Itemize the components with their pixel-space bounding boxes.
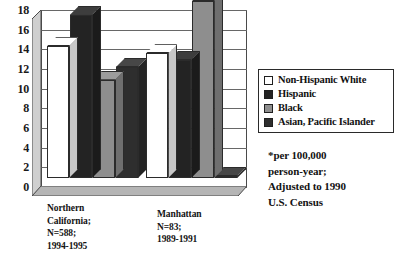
bar-side-face: [115, 71, 124, 178]
legend: Non-Hispanic White Hispanic Black Asian,…: [258, 69, 394, 133]
bar-front-face: [47, 46, 69, 178]
bar-side-face: [191, 51, 200, 178]
y-axis-tick-label: 0: [3, 181, 29, 193]
legend-label: Black: [278, 103, 303, 114]
plot-area: [32, 10, 247, 196]
y-axis-tick-label: 4: [3, 142, 29, 154]
bar-side-face: [214, 0, 223, 178]
bar-chart: 181614121086420 Northern California; N=5…: [0, 0, 401, 268]
legend-item-black: Black: [264, 101, 389, 115]
y-axis-tick-label: 14: [3, 43, 29, 55]
y-axis: 181614121086420: [0, 10, 29, 196]
bar-side-face: [138, 58, 147, 178]
legend-swatch-icon: [264, 118, 273, 127]
bar: [215, 176, 237, 178]
y-axis-tick-label: 16: [3, 24, 29, 36]
bar-side-face: [92, 6, 101, 178]
y-axis-tick-label: 6: [3, 122, 29, 134]
legend-item-hispanic: Hispanic: [264, 87, 389, 101]
bar-front-face: [215, 176, 237, 178]
legend-item-asian-pacific-islander: Asian, Pacific Islander: [264, 115, 389, 129]
floor-strip: [32, 186, 247, 196]
bar: [146, 53, 168, 178]
bar-side-face: [69, 37, 78, 178]
bar-front-face: [146, 53, 168, 178]
y-axis-tick-label: 10: [3, 83, 29, 95]
bar-side-face: [168, 44, 177, 178]
bar-series-container: [41, 10, 247, 187]
footnote-annotation: *per 100,000 person-year; Adjusted to 19…: [268, 148, 398, 210]
legend-swatch-icon: [264, 104, 273, 113]
y-axis-tick-label: 8: [3, 102, 29, 114]
x-axis-label-group-2: Manhattan N=83; 1989-1991: [157, 208, 242, 246]
x-axis-label-group-1: Northern California; N=588; 1994-1995: [47, 202, 132, 252]
legend-label: Non-Hispanic White: [278, 75, 366, 86]
legend-swatch-icon: [264, 90, 273, 99]
y-axis-tick-label: 2: [3, 161, 29, 173]
legend-label: Hispanic: [278, 89, 316, 100]
y-axis-tick-label: 12: [3, 63, 29, 75]
legend-label: Asian, Pacific Islander: [278, 117, 375, 128]
y-axis-tick-label: 18: [3, 4, 29, 16]
bar: [47, 46, 69, 178]
legend-item-non-hispanic-white: Non-Hispanic White: [264, 73, 389, 87]
legend-swatch-icon: [264, 76, 273, 85]
